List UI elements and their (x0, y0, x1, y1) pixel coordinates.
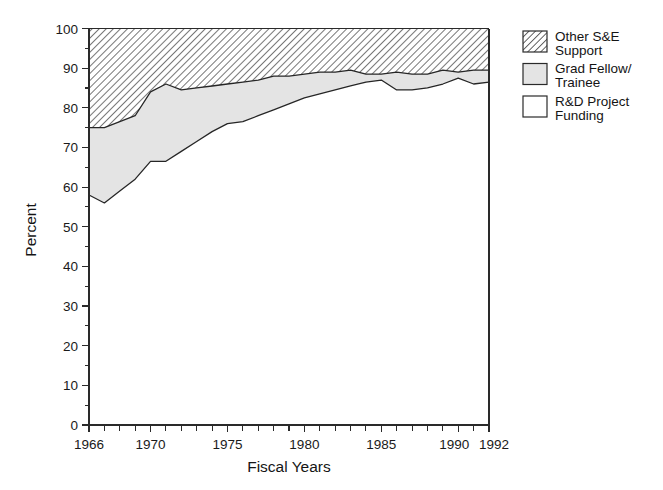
y-tick-label: 80 (63, 101, 78, 116)
stacked-area-chart: 0102030405060708090100 19661970197519801… (0, 0, 663, 490)
x-axis-tick-labels: 1966197019751980198519901992 (74, 437, 509, 452)
x-axis-title: Fiscal Years (247, 458, 331, 475)
x-tick-label: 1985 (366, 437, 396, 452)
legend-swatch-white-fill-swatch (523, 96, 547, 117)
y-axis-tick-labels: 0102030405060708090100 (55, 22, 78, 434)
legend-label-line1: Grad Fellow/ (555, 61, 632, 76)
chart-canvas: 0102030405060708090100 19661970197519801… (0, 0, 663, 490)
x-tick-label: 1970 (136, 437, 166, 452)
y-axis-title: Percent (22, 203, 39, 257)
legend-label-line1: Other S&E (555, 29, 620, 44)
legend-swatch-diagonal-hatch-swatch (523, 31, 547, 52)
legend-label-line1: R&D Project (555, 94, 630, 109)
y-tick-label: 100 (55, 22, 78, 37)
x-tick-label: 1966 (74, 437, 104, 452)
x-tick-label: 1980 (289, 437, 319, 452)
x-tick-label: 1990 (439, 437, 469, 452)
y-tick-label: 20 (63, 339, 78, 354)
y-tick-label: 60 (63, 180, 78, 195)
x-tick-label: 1975 (212, 437, 242, 452)
y-tick-label: 50 (63, 220, 78, 235)
y-tick-label: 10 (63, 378, 78, 393)
legend-label-line2: Trainee (555, 75, 600, 90)
y-tick-label: 30 (63, 299, 78, 314)
y-tick-label: 70 (63, 140, 78, 155)
y-tick-label: 90 (63, 61, 78, 76)
y-tick-label: 0 (70, 418, 78, 433)
legend-label-line2: Funding (555, 108, 604, 123)
legend-label-line2: Support (555, 43, 603, 58)
chart-legend: Other S&ESupportGrad Fellow/TraineeR&D P… (523, 29, 632, 123)
x-tick-label: 1992 (479, 437, 509, 452)
y-tick-label: 40 (63, 259, 78, 274)
legend-swatch-gray-fill-swatch (523, 64, 547, 85)
